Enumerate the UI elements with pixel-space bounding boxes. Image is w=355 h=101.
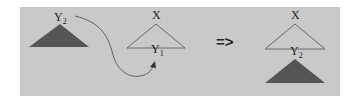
transform-arrow: => bbox=[216, 33, 234, 50]
x-label: X bbox=[152, 8, 161, 22]
left-subtree-y2: Y2 bbox=[29, 10, 89, 47]
left-tree-x: X Y1 bbox=[127, 8, 185, 58]
right-tree-x: X Y2 bbox=[265, 8, 325, 83]
y2-label: Y2 bbox=[290, 44, 303, 60]
x-label: X bbox=[291, 8, 300, 22]
filled-triangle-icon bbox=[29, 24, 89, 47]
substitution-diagram: Y2 X Y1 => X Y2 bbox=[0, 0, 355, 101]
y2-label: Y2 bbox=[54, 10, 67, 26]
y1-label: Y1 bbox=[151, 42, 164, 58]
filled-triangle-icon bbox=[265, 59, 325, 83]
arrowhead-icon bbox=[150, 61, 156, 68]
